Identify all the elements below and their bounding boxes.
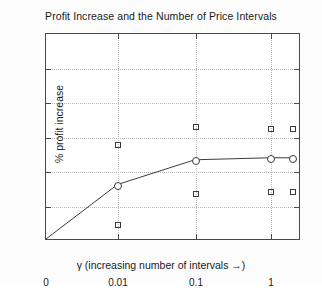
marker-upper-3 — [290, 126, 296, 132]
gridline-x-0.01 — [118, 34, 119, 239]
marker-mean-1 — [267, 155, 275, 163]
tick-y-right-15 — [294, 138, 299, 139]
gridline-x-1 — [271, 34, 272, 239]
tick-y-right-10 — [294, 172, 299, 173]
gridline-y-15 — [46, 138, 299, 139]
marker-upper-0.01 — [115, 142, 121, 148]
tick-y-right-5 — [294, 207, 299, 208]
xtick-label-0.1: 0.1 — [171, 277, 221, 288]
tick-x-0.01 — [118, 234, 119, 239]
tick-y-25 — [46, 69, 51, 70]
marker-lower-3 — [290, 189, 296, 195]
y-axis-title: % profit increase — [53, 49, 65, 199]
tick-y-10 — [46, 172, 51, 173]
marker-mean-0.1 — [192, 157, 200, 165]
marker-lower-0.1 — [193, 191, 199, 197]
tick-x-top-0.1 — [196, 34, 197, 39]
gridline-y-5 — [46, 207, 299, 208]
tick-x-top-1 — [271, 34, 272, 39]
marker-upper-0.1 — [193, 124, 199, 130]
xtick-label-0.01: 0.01 — [93, 277, 143, 288]
x-axis-title: γ (increasing number of intervals →) — [0, 259, 322, 271]
gridline-y-10 — [46, 172, 299, 173]
gridline-x-0.1 — [196, 34, 197, 239]
gridline-y-20 — [46, 103, 299, 104]
tick-y-15 — [46, 138, 51, 139]
marker-mean-0.01 — [114, 182, 122, 190]
tick-x-0.1 — [196, 234, 197, 239]
tick-y-right-20 — [294, 103, 299, 104]
marker-upper-1 — [268, 126, 274, 132]
xtick-label-0: 0 — [21, 277, 71, 288]
tick-y-20 — [46, 103, 51, 104]
xtick-label-1: 1 — [246, 277, 296, 288]
series-line-mean — [46, 34, 299, 239]
marker-mean-3 — [289, 155, 297, 163]
plot-area: 30 25 20 15 10 5 0 0 0.01 0.1 1 % profit… — [45, 33, 300, 240]
tick-y-5 — [46, 207, 51, 208]
tick-y-right-25 — [294, 69, 299, 70]
chart-title: Profit Increase and the Number of Price … — [0, 10, 322, 22]
marker-lower-0.01 — [115, 222, 121, 228]
marker-lower-1 — [268, 189, 274, 195]
tick-x-1 — [271, 234, 272, 239]
gridline-y-25 — [46, 69, 299, 70]
tick-x-top-0.01 — [118, 34, 119, 39]
